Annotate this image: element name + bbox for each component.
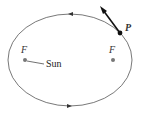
sun-pointer-line bbox=[27, 61, 44, 64]
sun-label: Sun bbox=[46, 58, 62, 69]
focus-right-dot bbox=[111, 58, 115, 62]
point-p-label: P bbox=[125, 22, 132, 33]
orbit-arrow-top bbox=[68, 12, 73, 16]
focus-left-dot bbox=[23, 58, 27, 62]
orbit-diagram: F F Sun P bbox=[0, 0, 142, 117]
orbit-arrow-bottom bbox=[67, 104, 72, 108]
point-p-dot bbox=[118, 31, 123, 36]
focus-left-label: F bbox=[20, 44, 28, 55]
focus-right-label: F bbox=[108, 44, 116, 55]
velocity-vector bbox=[103, 10, 120, 33]
